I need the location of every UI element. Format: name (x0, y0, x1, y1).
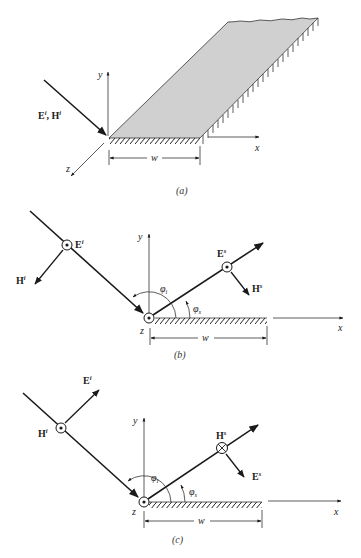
h-incident-label: Hi (16, 274, 26, 286)
x-axis-label: x (337, 322, 343, 333)
panel-b: x y z Ei Hi Es Hs φi φs w (b) (16, 211, 343, 361)
phi-s-label: φs (189, 486, 198, 498)
z-axis-label: z (65, 163, 70, 174)
h-scattered-arrow (231, 272, 249, 295)
e-incident-arrow (65, 390, 99, 423)
e-incident-label: Ei (75, 238, 84, 250)
phi-i-label: φi (160, 283, 168, 295)
phi-s-label: φs (193, 303, 202, 315)
scattered-ray (153, 243, 263, 315)
phi-s-arc (181, 485, 185, 502)
h-scattered-label: Hs (252, 282, 263, 294)
incident-ray (30, 211, 143, 313)
plate-surface (109, 18, 318, 138)
y-axis-label: y (137, 231, 143, 242)
e-scattered-dot (225, 265, 228, 268)
phi-i-label: φi (151, 472, 159, 484)
scattered-ray (148, 425, 258, 499)
z-axis-label: z (131, 506, 136, 517)
e-scattered-label: Es (252, 470, 262, 482)
phi-s-arc (186, 301, 190, 318)
plate-hatch (155, 318, 267, 324)
incident-wave-arrow (44, 80, 106, 135)
z-axis (71, 143, 104, 176)
panel-caption-c: (c) (172, 534, 184, 546)
e-scattered-arrow (226, 454, 244, 477)
e-incident-dot (65, 243, 68, 246)
h-incident-label: Hi (38, 427, 48, 439)
h-incident-dot (59, 426, 62, 429)
z-axis-label: z (139, 325, 144, 336)
plate-hatch-front (109, 138, 200, 144)
y-axis-label: y (97, 69, 103, 80)
y-axis-label: y (132, 415, 138, 426)
z-axis-dot (147, 316, 150, 319)
incident-field-label: Ei, Hi (38, 109, 61, 121)
width-label: w (198, 515, 205, 526)
x-axis-label: x (333, 506, 339, 517)
panel-c: x y z Hi Ei Hs Es φi φs w (c) (23, 374, 341, 546)
panel-caption-a: (a) (176, 185, 188, 197)
panel-caption-b: (b) (174, 349, 186, 361)
x-axis-label: x (254, 142, 260, 153)
h-scattered-label: Hs (216, 429, 227, 441)
scattering-figure: y x z Ei, Hi w (a) x y z Ei Hi (0, 0, 361, 558)
e-incident-label: Ei (83, 374, 92, 386)
width-label: w (202, 332, 209, 343)
plate-hatch (149, 502, 262, 508)
h-incident-arrow (35, 250, 63, 284)
e-scattered-label: Es (217, 247, 227, 259)
width-label: w (151, 152, 158, 163)
z-axis-dot (142, 500, 145, 503)
panel-a: y x z Ei, Hi w (a) (38, 18, 318, 197)
